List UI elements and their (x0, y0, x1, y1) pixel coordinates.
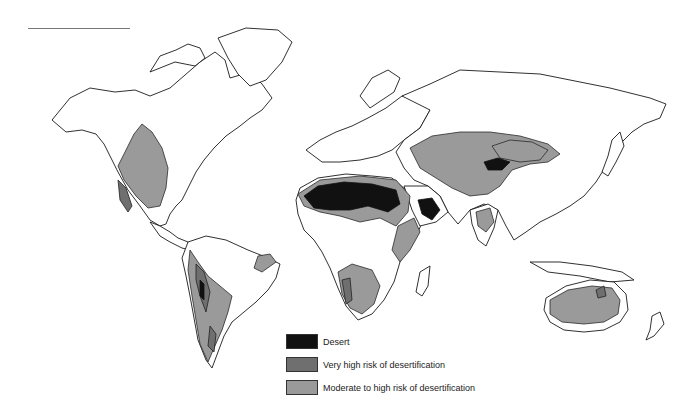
legend-item-moderate-risk: Moderate to high risk of desertification (286, 376, 475, 399)
legend-label: Very high risk of desertification (323, 360, 445, 370)
madagascar (416, 266, 430, 296)
very-high-risk-swatch (286, 357, 318, 372)
legend-label: Desert (323, 337, 350, 347)
indonesia (530, 262, 634, 282)
map-legend: Desert Very high risk of desertification… (286, 330, 475, 399)
world-map: Desert Very high risk of desertification… (0, 0, 689, 410)
region-desert-atacama (200, 280, 204, 300)
legend-item-very-high-risk: Very high risk of desertification (286, 353, 475, 376)
legend-label: Moderate to high risk of desertification (323, 383, 475, 393)
central-america (150, 222, 190, 250)
moderate-risk-swatch (286, 380, 318, 395)
legend-item-desert: Desert (286, 330, 475, 353)
desert-swatch (286, 334, 318, 349)
new-zealand (646, 312, 664, 340)
